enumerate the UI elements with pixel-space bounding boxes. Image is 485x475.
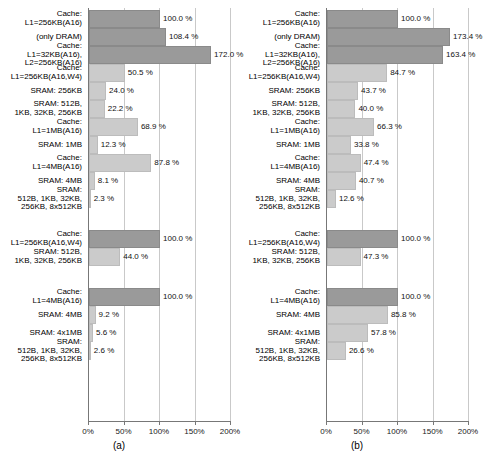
bar [89, 324, 93, 342]
x-axis-tick-label: 100% [142, 427, 176, 437]
panel-b: Cache: L1=256KB(A16)(only DRAM)Cache: L1… [238, 0, 476, 475]
bar-value-label: 100.0 % [163, 14, 192, 23]
bar-category-label: SRAM: 4MB [238, 177, 320, 186]
panel-caption: (b) [238, 440, 476, 451]
bar-value-label: 40.0 % [358, 104, 383, 113]
bar-category-label: SRAM: 512B, 1KB, 32KB, 256KB [0, 100, 82, 117]
bar-category-label: Cache: L1=4MB(A16) [0, 288, 82, 305]
x-axis-tick-label: 150% [178, 427, 212, 437]
bar-category-label: SRAM: 4MB [0, 311, 82, 320]
bar [89, 64, 125, 82]
bar [327, 118, 374, 136]
bar [327, 324, 368, 342]
bar-value-label: 57.8 % [371, 328, 396, 337]
bar [89, 230, 160, 248]
bar [327, 288, 398, 306]
bar [89, 10, 160, 28]
bar [89, 82, 106, 100]
x-axis-tick [397, 421, 398, 425]
bar [89, 46, 211, 64]
x-axis-tick-label: 50% [107, 427, 141, 437]
bar [89, 190, 91, 208]
bar-value-label: 68.9 % [141, 122, 166, 131]
bar-value-label: 108.4 % [169, 32, 198, 41]
bar [327, 306, 388, 324]
bar-value-label: 47.4 % [364, 158, 389, 167]
bar-category-label: Cache: L1=256KB(A16) [238, 10, 320, 27]
bar-category-label: Cache: L1=4MB(A16) [0, 154, 82, 171]
bar-category-label: SRAM: 512B, 1KB, 32KB, 256KB, 8x512KB [238, 338, 320, 364]
bar-value-label: 8.1 % [98, 176, 118, 185]
x-axis-tick-label: 50% [345, 427, 379, 437]
bar-value-label: 85.8 % [391, 310, 416, 319]
bar-category-label: SRAM: 4x1MB [238, 329, 320, 338]
bar-value-label: 44.0 % [123, 252, 148, 261]
bar [89, 136, 98, 154]
x-axis-tick [230, 421, 231, 425]
bar-category-label: SRAM: 512B, 1KB, 32KB, 256KB [0, 248, 82, 265]
bar-value-label: 9.2 % [99, 310, 119, 319]
bar [327, 248, 361, 266]
bar-value-label: 173.4 % [453, 32, 482, 41]
bar-value-label: 100.0 % [401, 234, 430, 243]
bar [89, 28, 166, 46]
bar-category-label: Cache: L1=256KB(A16,W4) [238, 230, 320, 247]
bar-category-label: SRAM: 4x1MB [0, 329, 82, 338]
bar [327, 46, 443, 64]
x-axis-tick [326, 421, 327, 425]
bar-category-label: Cache: L1=4MB(A16) [238, 154, 320, 171]
x-axis-tick-label: 0% [71, 427, 105, 437]
x-axis-tick [159, 421, 160, 425]
bar-category-label: SRAM: 512B, 1KB, 32KB, 256KB [238, 100, 320, 117]
bar [327, 172, 356, 190]
bar [327, 100, 355, 118]
bar [89, 342, 91, 360]
x-axis-tick [468, 421, 469, 425]
bar [89, 288, 160, 306]
bar-category-label: Cache: L1=256KB(A16,W4) [0, 230, 82, 247]
bar-category-label: SRAM: 4MB [0, 177, 82, 186]
bar-value-label: 100.0 % [401, 14, 430, 23]
bar-value-label: 87.8 % [154, 158, 179, 167]
bar-value-label: 2.6 % [94, 346, 114, 355]
bar-value-label: 24.0 % [109, 86, 134, 95]
bar-value-label: 66.3 % [377, 122, 402, 131]
bar-category-label: (only DRAM) [0, 33, 82, 42]
bar [327, 230, 398, 248]
bar [327, 154, 361, 172]
gridline [433, 8, 434, 421]
bar-category-label: Cache: L1=256KB(A16,W4) [0, 64, 82, 81]
bar-category-label: SRAM: 1MB [0, 141, 82, 150]
x-axis-tick-label: 0% [309, 427, 343, 437]
bar-category-label: Cache: L1=1MB(A16) [0, 118, 82, 135]
bar-value-label: 100.0 % [163, 292, 192, 301]
bar-value-label: 12.6 % [339, 194, 364, 203]
bar-category-label: Cache: L1=1MB(A16) [238, 118, 320, 135]
bar-value-label: 2.3 % [94, 194, 114, 203]
bar-category-label: SRAM: 256KB [238, 87, 320, 96]
bar [89, 306, 96, 324]
bar-category-label: SRAM: 1MB [238, 141, 320, 150]
category-label-column: Cache: L1=256KB(A16)(only DRAM)Cache: L1… [238, 0, 323, 413]
bar [89, 118, 138, 136]
bar-value-label: 50.5 % [128, 68, 153, 77]
bar-value-label: 33.8 % [354, 140, 379, 149]
bar-value-label: 5.6 % [96, 328, 116, 337]
bar [89, 172, 95, 190]
bar-category-label: Cache: L1=256KB(A16) [0, 10, 82, 27]
bar-category-label: SRAM: 4MB [238, 311, 320, 320]
gridline [159, 8, 160, 421]
bar-value-label: 47.3 % [364, 252, 389, 261]
bar [89, 248, 120, 266]
bar-value-label: 84.7 % [390, 68, 415, 77]
panel-a: Cache: L1=256KB(A16)(only DRAM)Cache: L1… [0, 0, 238, 475]
x-axis-tick [124, 421, 125, 425]
bar [327, 190, 336, 208]
plot-area: 0%50%100%150%200%100.0 %173.4 %163.4 %84… [326, 8, 468, 421]
bar-category-label: SRAM: 512B, 1KB, 32KB, 256KB, 8x512KB [0, 186, 82, 212]
gridline [230, 8, 231, 421]
bar [327, 136, 351, 154]
bar-category-label: (only DRAM) [238, 33, 320, 42]
bar [327, 64, 387, 82]
